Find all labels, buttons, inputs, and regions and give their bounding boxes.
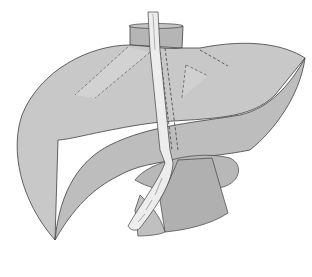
illustration-canvas <box>0 0 312 277</box>
liver-illustration <box>0 0 312 277</box>
